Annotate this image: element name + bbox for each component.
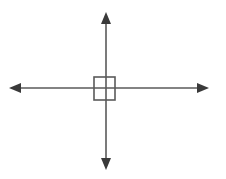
arrow-right-icon — [197, 83, 209, 93]
axes-diagram — [0, 0, 226, 179]
arrow-down-icon — [101, 158, 111, 170]
arrow-up-icon — [101, 12, 111, 24]
figure-canvas — [0, 0, 226, 179]
arrow-left-icon — [9, 83, 21, 93]
